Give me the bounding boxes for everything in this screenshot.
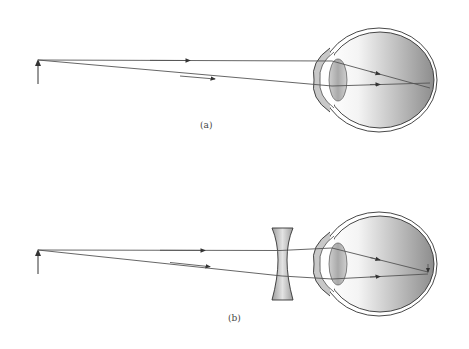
object-arrow-icon — [35, 59, 41, 84]
panel-a: (a) — [35, 28, 437, 132]
concave-lens — [272, 228, 293, 300]
object-arrow-icon — [35, 249, 41, 274]
panel-b: (b) — [35, 212, 437, 323]
myopia-diagram: (a) (b) — [0, 0, 469, 349]
panel-a-label: (a) — [200, 120, 212, 130]
eye-b — [313, 212, 437, 316]
eye-a — [313, 28, 437, 132]
panel-b-label: (b) — [228, 313, 241, 323]
